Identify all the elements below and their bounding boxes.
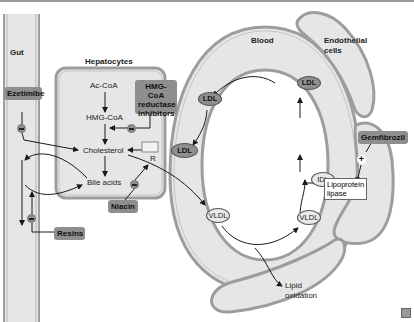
statins-line3: inhibitors	[138, 109, 174, 118]
receptor-label: R	[150, 154, 156, 163]
lipoprotein-lipase-line2: lipase	[327, 189, 364, 198]
niacin-inhibit-icon	[130, 180, 139, 189]
statins-drug: HMG-CoA reductase inhibitors	[135, 80, 177, 114]
resins-drug: Resins	[54, 227, 85, 240]
niacin-drug: Niacin	[108, 200, 138, 213]
lipoprotein-lipase-box: Lipoprotein lipase	[324, 178, 367, 200]
gemfibrozil-drug: Gemfibrozil	[358, 131, 408, 144]
diagram-canvas	[0, 0, 414, 322]
hmg-coa-label: HMG-CoA	[86, 113, 123, 122]
statins-line2: reductase	[138, 100, 174, 109]
blood-label: Blood	[251, 36, 274, 45]
statins-line1: HMG-CoA	[138, 82, 174, 100]
lipid-oxidation-label-line2: oxidation	[285, 291, 317, 300]
lipid-oxidation-label-line1: Lipid	[285, 281, 302, 290]
vldl-particle-left: VLDL	[206, 208, 230, 223]
ac-coa-label: Ac-CoA	[90, 81, 118, 90]
vldl-particle-right: VLDL	[297, 210, 321, 225]
gut-label: Gut	[10, 48, 24, 57]
endothelial-label-line2: cells	[324, 46, 342, 55]
cholesterol-label: Cholesterol	[83, 146, 123, 155]
lipoprotein-lipase-line1: Lipoprotein	[327, 180, 364, 189]
ldl-particle-right: LDL	[297, 76, 321, 90]
ldl-particle-left: LDL	[198, 92, 222, 106]
figure-badge-icon	[401, 308, 411, 318]
ldl-particle-receptor: LDL	[171, 143, 198, 158]
statin-inhibit-icon	[127, 124, 136, 133]
endothelial-label-line1: Endothelial	[324, 36, 367, 45]
bile-acids-label: Bile acids	[87, 178, 121, 187]
ezetimibe-drug: Ezetimibe	[4, 87, 42, 100]
ezetimibe-inhibit-icon	[17, 124, 26, 133]
hepatocytes-label: Hepatocytes	[85, 57, 133, 66]
gemfibrozil-activate-icon: +	[357, 155, 366, 164]
ldl-receptor	[142, 142, 158, 152]
resins-inhibit-icon	[27, 214, 36, 223]
